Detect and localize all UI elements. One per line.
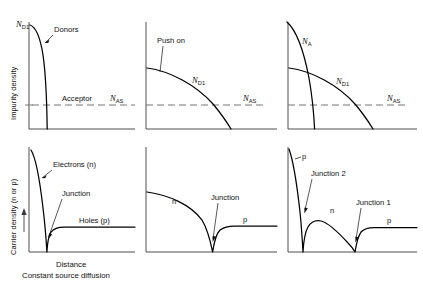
panel-bottom-left-junction-arrowhead bbox=[48, 233, 52, 239]
panel-bottom-left-holes-label: Holes (p) bbox=[79, 216, 110, 225]
panel-bottom-right-junction2-label: Junction 2 bbox=[311, 169, 346, 178]
panel-top-middle-pushon-label: Push on bbox=[157, 36, 185, 45]
panel-bottom-right-junction2-arrowhead bbox=[304, 208, 308, 214]
x-axis-label: Distance bbox=[56, 260, 86, 269]
panel-top-middle-donor-symbol: ND1 bbox=[191, 75, 205, 86]
panel-bottom-left-junction-leader bbox=[49, 199, 62, 236]
panel-bottom-right: p Junction 2 n Junction 1 p bbox=[288, 147, 417, 252]
panel-top-left: ND1 Donors Acceptor NAS bbox=[15, 19, 135, 129]
panel-bottom-left-electrons-arrowhead bbox=[42, 175, 47, 178]
panel-top-left-donors-leader bbox=[45, 35, 53, 43]
panel-bottom-right-junction1-label: Junction 1 bbox=[356, 198, 391, 207]
panel-top-left-peak-symbol: ND1 bbox=[15, 19, 29, 30]
panel-bottom-right-p-left-leader bbox=[295, 157, 301, 159]
panel-top-right: NA ND1 NAS bbox=[287, 22, 417, 129]
panel-top-right-acceptor-curve bbox=[287, 22, 315, 129]
panel-bottom-left-axis-arrowhead bbox=[21, 208, 26, 215]
diffusion-profile-figure: Impurity density ND1 Donors Acceptor NAS bbox=[0, 0, 423, 284]
panel-top-left-acceptor-symbol: NAS bbox=[109, 93, 124, 104]
panel-bottom-right-junction2-leader bbox=[305, 179, 312, 210]
impurity-density-axis-title: Impurity density bbox=[9, 66, 18, 120]
panel-bottom-right-carrier-curve bbox=[289, 149, 417, 252]
panel-bottom-left-junction-label: Junction bbox=[62, 189, 90, 198]
panel-top-middle-acceptor-symbol: NAS bbox=[242, 93, 257, 104]
panel-top-right-acceptor-curve-symbol: NA bbox=[301, 36, 312, 47]
panel-top-left-donor-curve bbox=[30, 25, 47, 129]
panel-bottom-left-electrons-leader bbox=[42, 170, 52, 178]
panel-top-left-acceptor-label: Acceptor bbox=[62, 94, 92, 103]
panel-top-left-donors-label: Donors bbox=[54, 25, 79, 34]
panel-top-right-donor-curve bbox=[289, 68, 373, 129]
panel-top-right-donor-symbol: ND1 bbox=[335, 76, 349, 87]
carrier-density-axis-title: Carrier density (n or p) bbox=[9, 179, 18, 255]
panel-top-right-acceptor-symbol: NAS bbox=[386, 93, 401, 104]
panel-bottom-left: Electrons (n) Junction Holes (p) bbox=[21, 147, 135, 252]
panel-top-middle: Push on ND1 NAS bbox=[146, 22, 277, 129]
panel-bottom-middle: n Junction p bbox=[146, 147, 277, 252]
panel-bottom-right-n-label: n bbox=[330, 206, 334, 215]
panel-bottom-right-p-left-label: p bbox=[302, 152, 306, 161]
panel-top-middle-pushon-leader bbox=[160, 46, 163, 72]
panel-bottom-middle-p-label: p bbox=[243, 215, 247, 224]
panel-bottom-middle-junction-label: Junction bbox=[211, 193, 239, 202]
panel-bottom-left-electrons-label: Electrons (n) bbox=[53, 160, 97, 169]
panel-bottom-right-p-right-label: p bbox=[387, 216, 391, 225]
panel-bottom-middle-n-label: n bbox=[172, 197, 176, 206]
panel-top-middle-donor-curve bbox=[147, 68, 231, 129]
figure-caption: Constant source diffusion bbox=[22, 271, 110, 280]
